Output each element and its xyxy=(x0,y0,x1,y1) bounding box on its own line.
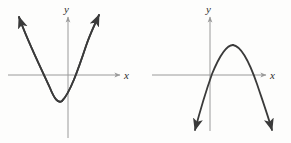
parabola-curve-right-left-branch xyxy=(195,45,233,130)
right-graph-svg: x y xyxy=(145,0,291,143)
left-graph-svg: x y xyxy=(0,0,145,143)
graph-panel-right: x y xyxy=(145,0,291,143)
x-axis-label-left: x xyxy=(123,69,129,81)
graph-panel-left: x y xyxy=(0,0,145,143)
parabola-curve-left xyxy=(19,15,99,102)
parabola-curve-right-right-branch xyxy=(233,45,272,130)
x-axis-label-right: x xyxy=(269,69,275,81)
parabola-figure: x y x y xyxy=(0,0,291,143)
y-axis-label-left: y xyxy=(63,3,69,15)
parabola-curve-left-mirror xyxy=(19,15,99,102)
axes-right xyxy=(152,17,266,131)
y-axis-label-right: y xyxy=(205,3,211,15)
axes-left xyxy=(8,17,120,138)
